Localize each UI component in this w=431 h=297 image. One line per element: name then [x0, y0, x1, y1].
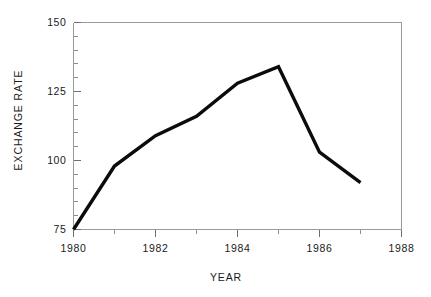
x-tick-label: 1988 — [389, 242, 415, 254]
y-axis-title: EXCHANGE RATE — [12, 70, 24, 171]
y-tick-label: 75 — [54, 223, 67, 235]
y-tick-label: 150 — [47, 16, 66, 28]
x-tick-label: 1980 — [61, 242, 87, 254]
x-tick-label: 1986 — [307, 242, 333, 254]
x-tick-label: 1982 — [143, 242, 169, 254]
y-tick-label: 125 — [47, 85, 66, 97]
chart-container: 75100125150 19801982198419861988 EXCHANG… — [0, 0, 431, 297]
y-tick-label: 100 — [47, 154, 66, 166]
line-chart: 75100125150 19801982198419861988 EXCHANG… — [0, 0, 431, 297]
x-axis-title: YEAR — [210, 271, 242, 283]
x-tick-label: 1984 — [225, 242, 251, 254]
